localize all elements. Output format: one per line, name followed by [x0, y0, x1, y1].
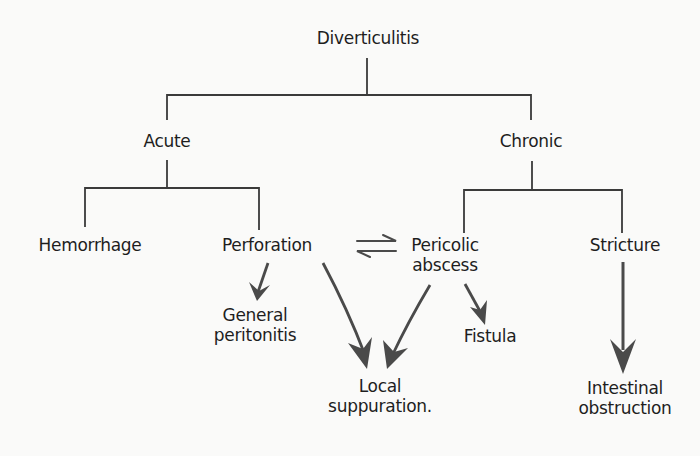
node-label: Fistula [455, 326, 525, 346]
arrow-pericolic-to-fistula [465, 284, 487, 325]
node-label: Diverticulitis [308, 28, 428, 48]
node-diverticulitis: Diverticulitis [308, 28, 428, 48]
node-label-line-1: Local [325, 376, 435, 396]
node-hemorrhage: Hemorrhage [30, 235, 150, 255]
node-label: Hemorrhage [30, 235, 150, 255]
node-label: Perforation [212, 235, 322, 255]
node-label: Acute [127, 131, 207, 151]
node-label-line-1: Intestinal [570, 378, 680, 398]
node-label-line-2: obstruction [570, 398, 680, 418]
node-stricture: Stricture [580, 235, 670, 255]
node-label: Chronic [491, 131, 571, 151]
diagram-canvas: Diverticulitis Acute Chronic Hemorrhage … [0, 0, 700, 456]
node-pericolic-abscess: Pericolic abscess [400, 235, 490, 275]
node-acute: Acute [127, 131, 207, 151]
node-label-line-1: Pericolic [400, 235, 490, 255]
node-label-line-2: peritonitis [205, 325, 305, 345]
node-label-line-1: General [205, 305, 305, 325]
arrow-perforation-to-general-peritonitis [249, 263, 270, 301]
node-label-line-2: suppuration. [325, 396, 435, 416]
tree-root-connector [167, 58, 531, 120]
node-local-suppuration: Local suppuration. [325, 376, 435, 416]
node-perforation: Perforation [212, 235, 322, 255]
arrow-perforation-to-local-suppuration [323, 263, 372, 369]
node-label: Stricture [580, 235, 670, 255]
node-label-line-2: abscess [400, 255, 490, 275]
arrow-pericolic-to-local-suppuration [383, 285, 430, 369]
tree-chronic-connector [464, 161, 622, 233]
node-fistula: Fistula [455, 326, 525, 346]
tree-acute-connector [85, 160, 259, 230]
node-chronic: Chronic [491, 131, 571, 151]
node-general-peritonitis: General peritonitis [205, 305, 305, 345]
node-intestinal-obstruction: Intestinal obstruction [570, 378, 680, 418]
arrow-stricture-to-intestinal-obstruction [610, 262, 636, 374]
reversible-arrow-icon [357, 235, 396, 257]
